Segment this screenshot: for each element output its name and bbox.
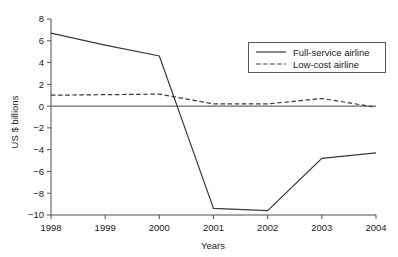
y-tick-label: −10 — [28, 209, 44, 220]
legend-label-full-service-airline: Full-service airline — [293, 47, 370, 58]
x-tick-label: 2004 — [365, 222, 386, 233]
legend-label-low-cost-airline: Low-cost airline — [293, 59, 359, 70]
y-tick-label: 2 — [39, 79, 44, 90]
y-axis-tick-group: 86420−2−4−6−8−10 — [28, 13, 51, 220]
x-tick-label: 1999 — [95, 222, 116, 233]
x-tick-label: 2001 — [203, 222, 224, 233]
chart-figure: 86420−2−4−6−8−10 19981999200020012002200… — [0, 0, 398, 257]
y-tick-label: 6 — [39, 35, 44, 46]
y-tick-label: 8 — [39, 13, 44, 24]
x-tick-label: 2003 — [311, 222, 332, 233]
y-tick-label: 0 — [39, 101, 44, 112]
x-tick-label: 2002 — [257, 222, 278, 233]
y-tick-label: −8 — [33, 188, 44, 199]
x-axis-tick-group: 1998199920002001200220032004 — [40, 215, 386, 233]
chart-legend: Full-service airline Low-cost airline — [249, 43, 386, 73]
y-tick-label: −6 — [33, 166, 44, 177]
y-tick-label: 4 — [39, 57, 44, 68]
x-tick-label: 2000 — [149, 222, 170, 233]
y-tick-label: −2 — [33, 122, 44, 133]
y-tick-label: −4 — [33, 144, 44, 155]
x-axis-title: Years — [201, 240, 225, 251]
line-chart-canvas: 86420−2−4−6−8−10 19981999200020012002200… — [0, 0, 398, 257]
y-axis-title: US $ billions — [9, 95, 20, 148]
x-tick-label: 1998 — [40, 222, 61, 233]
series-line-low-cost-airline — [51, 94, 376, 107]
